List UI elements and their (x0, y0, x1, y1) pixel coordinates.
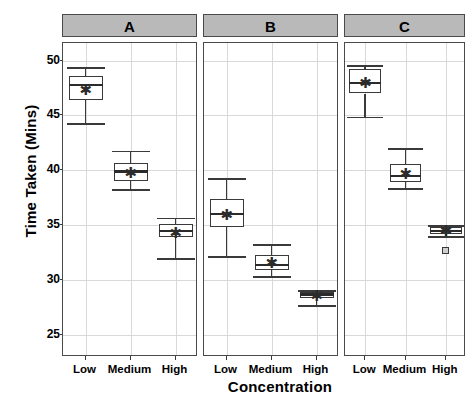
panel-c: C✱✱✱LowMediumHigh (344, 14, 465, 356)
whisker-cap-lower (208, 256, 246, 258)
gridline-vertical (406, 43, 407, 355)
panel-strip-label: B (204, 15, 337, 38)
y-tick-label: 45 (34, 109, 60, 119)
outlier-point (442, 247, 449, 254)
boxplot-figure: Time Taken (Mins) Concentration 25303540… (0, 0, 473, 413)
whisker-cap-lower (347, 117, 382, 119)
mean-marker: ✱ (266, 259, 278, 267)
whisker-lower (364, 94, 366, 117)
whisker-cap-upper (67, 67, 105, 69)
whisker-upper (130, 151, 132, 163)
gridline-vertical (176, 43, 177, 355)
whisker-cap-lower (388, 188, 423, 190)
x-axis-title: Concentration (180, 378, 380, 398)
panel-strip-label: A (63, 15, 196, 38)
y-tick-label: 35 (34, 219, 60, 229)
panel-strip-a: A (62, 14, 197, 37)
whisker-lower (226, 227, 228, 256)
y-axis: 253035404550 (32, 0, 60, 413)
gridline-vertical (131, 43, 132, 355)
whisker-cap-upper (112, 151, 150, 153)
x-tick-mark (271, 356, 272, 360)
mean-marker: ✱ (400, 170, 412, 178)
mean-marker: ✱ (440, 227, 452, 235)
whisker-cap-upper (208, 178, 246, 180)
whisker-cap-lower (157, 258, 195, 260)
gridline-vertical (446, 43, 447, 355)
mean-marker: ✱ (80, 86, 92, 94)
mean-marker: ✱ (311, 292, 323, 300)
x-tick-mark (85, 356, 86, 360)
plot-area-a: ✱✱✱ (62, 42, 197, 356)
figure-caption (14, 399, 454, 413)
panel-a: A✱✱✱LowMediumHigh (62, 14, 197, 356)
y-tick-label: 50 (34, 55, 60, 65)
whisker-upper (405, 148, 407, 163)
panel-strip-c: C (344, 14, 465, 37)
panel-b: B✱✱✱LowMediumHigh (203, 14, 338, 356)
x-tick-mark (405, 356, 406, 360)
mean-marker: ✱ (359, 79, 371, 87)
x-tick-mark (364, 356, 365, 360)
x-tick-label-high: High (417, 363, 473, 375)
whisker-cap-upper (157, 218, 195, 220)
x-tick-mark (445, 356, 446, 360)
panel-strip-label: C (345, 15, 464, 38)
plot-area-c: ✱✱✱ (344, 42, 465, 356)
whisker-upper (226, 178, 228, 199)
x-tick-mark (226, 356, 227, 360)
mean-marker: ✱ (221, 211, 233, 219)
whisker-lower (85, 100, 87, 123)
whisker-cap-upper (347, 65, 382, 67)
whisker-cap-lower (67, 123, 105, 125)
x-tick-mark (316, 356, 317, 360)
whisker-cap-lower (253, 276, 291, 278)
mean-marker: ✱ (170, 229, 182, 237)
x-tick-mark (175, 356, 176, 360)
x-tick-label-high: High (147, 363, 203, 375)
gridline-vertical (272, 43, 273, 355)
plot-area-b: ✱✱✱ (203, 42, 338, 356)
whisker-cap-upper (253, 244, 291, 246)
y-tick-label: 25 (34, 329, 60, 339)
panel-strip-b: B (203, 14, 338, 37)
whisker-cap-upper (388, 148, 423, 150)
whisker-cap-lower (298, 305, 336, 307)
mean-marker: ✱ (125, 169, 137, 177)
whisker-lower (130, 181, 132, 189)
y-tick-label: 30 (34, 274, 60, 284)
x-tick-mark (130, 356, 131, 360)
y-tick-label: 40 (34, 164, 60, 174)
gridline-vertical (317, 43, 318, 355)
whisker-cap-lower (112, 189, 150, 191)
x-tick-label-high: High (288, 363, 344, 375)
